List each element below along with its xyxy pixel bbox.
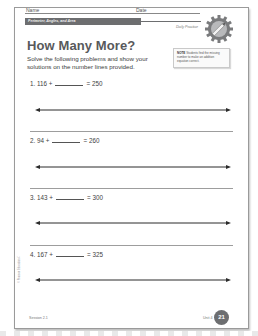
copyright-text: © Pearson Education 4 <box>18 243 21 283</box>
problem-addend: 143 + <box>37 194 53 201</box>
number-line-1[interactable] <box>35 106 231 114</box>
problem-2: 2. 94 += 260 <box>30 137 99 144</box>
problem-4: 4. 167 += 325 <box>30 251 103 258</box>
unit-label: Unit 4 <box>203 316 212 320</box>
separator-line <box>30 131 233 132</box>
worksheet-title: How Many More? <box>27 38 135 53</box>
teacher-note: NOTE Students find the missing number to… <box>173 48 230 68</box>
instructions: Solve the following problems and show yo… <box>27 55 162 71</box>
problem-3: 3. 143 += 300 <box>30 194 103 201</box>
answer-blank[interactable] <box>56 194 84 200</box>
problem-number: 2. <box>30 137 35 144</box>
problem-addend: 167 + <box>37 251 53 258</box>
page-number-badge: 21 <box>214 310 229 325</box>
answer-blank[interactable] <box>55 80 83 86</box>
problem-1: 1. 116 += 250 <box>30 80 102 87</box>
separator-line <box>30 245 233 246</box>
next-page-edge <box>0 331 258 336</box>
name-line <box>25 13 200 14</box>
problem-addend: 116 + <box>37 80 52 87</box>
date-label: Date <box>136 7 147 13</box>
separator-line <box>30 188 233 189</box>
problem-result: = 325 <box>87 251 103 258</box>
problem-number: 1. <box>30 80 35 87</box>
problem-result: = 260 <box>83 137 99 144</box>
session-label: Session 2.1 <box>29 316 48 320</box>
number-line-4[interactable] <box>35 276 231 284</box>
daily-practice-label: Daily Practice <box>176 25 198 29</box>
problem-result: = 250 <box>86 80 102 87</box>
problem-addend: 94 + <box>37 137 49 144</box>
problem-result: = 300 <box>87 194 103 201</box>
number-line-2[interactable] <box>35 163 231 171</box>
unit-bar-rule <box>141 21 201 22</box>
unit-title-bar: Perimeter, Angles, and Area <box>25 18 141 25</box>
answer-blank[interactable] <box>52 137 80 143</box>
answer-blank[interactable] <box>56 251 84 257</box>
number-line-3[interactable] <box>35 219 231 227</box>
problem-number: 4. <box>30 251 35 258</box>
problem-number: 3. <box>30 194 35 201</box>
pencil-gear-icon <box>204 14 234 44</box>
